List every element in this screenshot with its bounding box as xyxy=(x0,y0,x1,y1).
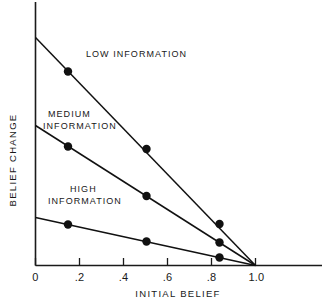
series-label-medium-information-line1: MEDIUM xyxy=(48,109,91,119)
y-axis-title: BELIEF CHANGE xyxy=(7,114,18,207)
data-point-low-1 xyxy=(64,67,72,75)
data-point-high-2 xyxy=(142,237,150,245)
series-label-medium-information-line2: INFORMATION xyxy=(43,121,117,131)
data-point-medium-3 xyxy=(215,238,223,246)
series-label-low-information: LOW INFORMATION xyxy=(86,49,187,59)
chart-background xyxy=(0,0,333,303)
data-point-high-1 xyxy=(64,220,72,228)
x-axis-title: INITIAL BELIEF xyxy=(135,288,220,299)
x-tick-label-2: .4 xyxy=(119,271,129,283)
x-tick-label-3: .6 xyxy=(163,271,173,283)
x-tick-label-1: .2 xyxy=(75,271,85,283)
belief-change-line-chart: 0 .2 .4 .6 .8 1.0 INITIAL BELIEF BELIEF … xyxy=(0,0,333,303)
series-label-high-information-line1: HIGH xyxy=(70,184,97,194)
chart-figure: 0 .2 .4 .6 .8 1.0 INITIAL BELIEF BELIEF … xyxy=(0,0,333,303)
data-point-medium-1 xyxy=(64,142,72,150)
x-tick-label-5: 1.0 xyxy=(249,271,265,283)
data-point-low-3 xyxy=(215,220,223,228)
data-point-low-2 xyxy=(142,145,150,153)
x-tick-label-0: 0 xyxy=(32,271,38,283)
x-tick-label-4: .8 xyxy=(207,271,217,283)
data-point-high-3 xyxy=(215,253,223,261)
data-point-medium-2 xyxy=(142,192,150,200)
series-label-high-information-line2: INFORMATION xyxy=(48,196,122,206)
